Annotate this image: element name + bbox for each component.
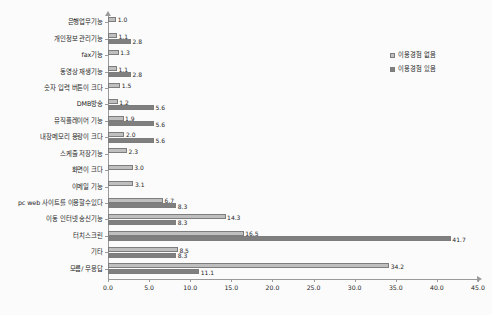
- bar-value-label: 34.2: [391, 262, 404, 269]
- x-axis-tick: [231, 279, 232, 282]
- x-axis-tick: [272, 279, 273, 282]
- x-axis-tick: [190, 279, 191, 282]
- bar-value-label: 3.1: [135, 180, 145, 187]
- bar-value-label: 11.1: [201, 268, 214, 275]
- chart-row: 이동 인터넷 송신기능14.38.3: [108, 211, 478, 227]
- bar-series-0: 2.3: [108, 148, 127, 153]
- x-axis-tick-label: 15.0: [224, 284, 238, 291]
- y-axis-tick: [105, 187, 108, 188]
- y-axis-tick: [105, 22, 108, 23]
- x-axis-tick-label: 10.0: [183, 284, 197, 291]
- x-axis-tick-label: 0.0: [103, 284, 113, 291]
- x-axis-tick: [108, 279, 109, 282]
- bar-value-label: 5.6: [156, 137, 166, 144]
- bar-series-0: 16.5: [108, 231, 244, 236]
- x-axis-tick: [437, 279, 438, 282]
- x-axis-tick: [396, 279, 397, 282]
- chart-row: 내장메모리 용량이 크다2.05.6: [108, 129, 478, 145]
- legend-item[interactable]: 이용경험 있음: [390, 64, 436, 74]
- category-label: 내장메모리 용량이 크다: [40, 133, 103, 141]
- category-label: fax기능: [82, 51, 103, 59]
- chart-row: 숫자 입력 버튼이 크다1.5: [108, 80, 478, 96]
- bar-value-label: 3.0: [134, 164, 144, 171]
- bar-series-0: 1.1: [108, 33, 117, 38]
- bar-value-label: 8.3: [178, 252, 188, 259]
- bar-series-0: 1.9: [108, 116, 124, 121]
- category-label: 이동 인터넷 송신기능: [46, 215, 103, 223]
- bar-series-0: 1.5: [108, 83, 120, 88]
- category-label: pc web 사이트를 이용할수있다: [18, 199, 103, 207]
- bar-series-0: 14.3: [108, 214, 226, 219]
- y-axis-tick: [105, 55, 108, 56]
- category-label: 뮤직플레이어 기능: [54, 117, 103, 125]
- legend-swatch-icon: [390, 67, 395, 72]
- y-axis-tick: [105, 154, 108, 155]
- bar-value-label: 1.0: [118, 16, 128, 23]
- bar-series-0: 8.5: [108, 247, 178, 252]
- legend-item[interactable]: 이용경험 없음: [390, 50, 436, 60]
- x-axis-tick: [314, 279, 315, 282]
- y-axis-tick: [105, 88, 108, 89]
- bar-series-1: 8.3: [108, 220, 176, 225]
- bar-chart: 은행업무기능1.0개인정보 관리기능1.12.8fax기능1.3동영상 재생기능…: [0, 0, 492, 315]
- x-axis-tick: [355, 279, 356, 282]
- bar-series-0: 34.2: [108, 263, 389, 268]
- bar-value-label: 8.3: [178, 202, 188, 209]
- x-axis-tick-label: 35.0: [389, 284, 403, 291]
- category-label: 동영상 재생기능: [60, 68, 103, 76]
- legend-label: 이용경험 없음: [398, 50, 436, 60]
- bar-series-0: 1.2: [108, 99, 118, 104]
- x-axis-tick-label: 40.0: [430, 284, 444, 291]
- chart-row: 기타8.58.3: [108, 244, 478, 260]
- x-axis-tick-label: 45.0: [471, 284, 485, 291]
- category-label: DMB방송: [77, 100, 103, 108]
- legend-label: 이용경험 있음: [398, 64, 436, 74]
- bar-series-0: 1.0: [108, 17, 116, 22]
- chart-row: 화면이 크다3.0: [108, 162, 478, 178]
- bar-series-1: 2.8: [108, 72, 131, 77]
- x-axis-tick: [149, 279, 150, 282]
- bar-value-label: 14.3: [227, 213, 240, 220]
- category-label: 기타: [91, 248, 103, 256]
- bar-series-0: 6.7: [108, 198, 163, 203]
- bar-value-label: 41.7: [452, 235, 465, 242]
- x-axis-tick-label: 5.0: [144, 284, 154, 291]
- chart-row: 개인정보 관리기능1.12.8: [108, 30, 478, 46]
- category-label: 화면이 크다: [72, 166, 103, 174]
- bar-value-label: 1.3: [120, 49, 130, 56]
- chart-row: 터치스크린16.541.7: [108, 228, 478, 244]
- bar-value-label: 2.8: [133, 71, 143, 78]
- category-label: 은행업무기능: [68, 18, 103, 26]
- chart-row: 이메일 기능3.1: [108, 178, 478, 194]
- bar-series-0: 1.1: [108, 66, 117, 71]
- bar-value-label: 5.6: [156, 104, 166, 111]
- bar-series-1: 11.1: [108, 269, 199, 274]
- bar-series-1: 8.3: [108, 203, 176, 208]
- chart-row: 은행업무기능1.0: [108, 14, 478, 30]
- bar-value-label: 5.6: [156, 120, 166, 127]
- legend-swatch-icon: [390, 53, 395, 58]
- category-label: 스케줄 저장기능: [60, 150, 103, 158]
- category-label: 이메일 기능: [72, 183, 103, 191]
- bar-series-0: 3.1: [108, 181, 133, 186]
- category-label: 숫자 입력 버튼이 크다: [44, 84, 103, 92]
- x-axis-tick-label: 25.0: [307, 284, 321, 291]
- category-label: 개인정보 관리기능: [54, 35, 103, 43]
- x-axis-line: [108, 279, 479, 280]
- bar-series-1: 5.6: [108, 121, 154, 126]
- bar-series-0: 1.3: [108, 50, 119, 55]
- x-axis-tick-label: 20.0: [266, 284, 280, 291]
- chart-row: 뮤직플레이어 기능1.95.6: [108, 113, 478, 129]
- category-label: 모름/ 무응답: [70, 265, 104, 273]
- bar-series-0: 3.0: [108, 165, 133, 170]
- y-axis-tick: [105, 170, 108, 171]
- bar-series-1: 41.7: [108, 236, 451, 241]
- bar-series-1: 5.6: [108, 105, 154, 110]
- chart-row: 모름/ 무응답34.211.1: [108, 261, 478, 277]
- category-label: 터치스크린: [73, 232, 103, 240]
- chart-row: 스케줄 저장기능2.3: [108, 146, 478, 162]
- bar-series-1: 2.8: [108, 39, 131, 44]
- bar-value-label: 2.8: [133, 38, 143, 45]
- bar-series-1: 5.6: [108, 138, 154, 143]
- bar-series-0: 2.0: [108, 132, 124, 137]
